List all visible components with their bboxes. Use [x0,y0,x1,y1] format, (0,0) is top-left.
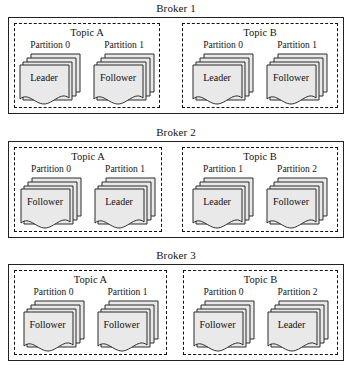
partition-label: Partition 2 [277,163,317,175]
replica-document-stack-icon[interactable]: Follower [193,299,255,353]
partition[interactable]: Partition 1 Follower [97,286,159,353]
broker-group: Broker 2 Topic A Partition 0 [0,126,352,238]
replica-document-stack-icon[interactable]: Leader [94,176,156,230]
partition[interactable]: Partition 0 Follower [193,286,255,353]
broker-group: Broker 3 Topic A Partition 0 [0,249,352,361]
partition[interactable]: Partition 0 Follower [20,163,82,230]
partitions-row: Partition 0 Follower [193,286,329,354]
broker-group: Broker 1 Topic A Partition 0 [0,2,352,114]
partition-label: Partition 0 [30,39,70,51]
replica-document-stack-icon[interactable]: Leader [192,52,254,106]
topic-container: Topic A Partition 0 [14,270,167,355]
partition[interactable]: Partition 2 Leader [267,286,329,353]
partition-label: Partition 2 [278,286,318,298]
topic-title: Topic A [71,150,104,163]
partition-label: Partition 1 [104,39,144,51]
partition[interactable]: Partition 0 Leader [19,39,81,106]
replica-document-stack-icon[interactable]: Follower [93,52,155,106]
partition-label: Partition 0 [34,286,74,298]
replica-document-stack-icon[interactable]: Follower [266,52,328,106]
partition-label: Partition 1 [105,163,145,175]
partitions-row: Partition 0 Follower [20,163,156,231]
broker-title: Broker 2 [0,126,352,139]
topic-container: Topic B Partition 1 [182,147,338,232]
partition[interactable]: Partition 1 Leader [94,163,156,230]
topic-container: Topic A Partition 0 [14,23,160,108]
partition[interactable]: Partition 1 Follower [93,39,155,106]
broker-title: Broker 3 [0,249,352,262]
replica-document-stack-icon[interactable]: Leader [192,176,254,230]
partition[interactable]: Partition 0 Follower [23,286,85,353]
partitions-row: Partition 1 Leader [192,163,328,231]
topic-title: Topic A [70,26,103,39]
partition[interactable]: Partition 2 Follower [266,163,328,230]
partitions-row: Partition 0 Leader [19,39,155,107]
broker-topology-diagram: Broker 1 Topic A Partition 0 [0,0,352,372]
partition[interactable]: Partition 1 Leader [192,163,254,230]
partition[interactable]: Partition 0 Leader [192,39,254,106]
topic-title: Topic A [74,273,107,286]
broker-title: Broker 1 [0,2,352,15]
replica-document-stack-icon[interactable]: Follower [266,176,328,230]
partitions-row: Partition 0 Follower [23,286,159,354]
topic-container: Topic B Partition 0 [182,23,338,108]
partition-label: Partition 0 [204,286,244,298]
topic-title: Topic B [243,26,276,39]
replica-document-stack-icon[interactable]: Follower [20,176,82,230]
broker-container: Topic A Partition 0 [8,264,344,361]
topic-container: Topic B Partition 0 [183,270,338,355]
topic-container: Topic A Partition 0 [14,147,162,232]
replica-document-stack-icon[interactable]: Leader [267,299,329,353]
replica-document-stack-icon[interactable]: Follower [97,299,159,353]
topic-title: Topic B [243,150,276,163]
partition-label: Partition 1 [277,39,317,51]
partition-label: Partition 0 [203,39,243,51]
partitions-row: Partition 0 Leader [192,39,328,107]
replica-document-stack-icon[interactable]: Follower [23,299,85,353]
topic-title: Topic B [244,273,277,286]
partition-label: Partition 1 [108,286,148,298]
partition-label: Partition 0 [31,163,71,175]
replica-document-stack-icon[interactable]: Leader [19,52,81,106]
partition-label: Partition 1 [203,163,243,175]
broker-container: Topic A Partition 0 [8,17,344,114]
partition[interactable]: Partition 1 Follower [266,39,328,106]
broker-container: Topic A Partition 0 [8,141,344,238]
